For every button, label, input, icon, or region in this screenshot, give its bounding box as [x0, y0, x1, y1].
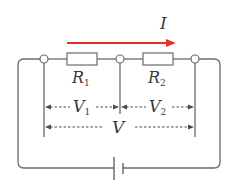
v1-subscript: 1 — [85, 107, 91, 117]
v-letter: V — [112, 117, 124, 137]
v1-letter: V — [73, 97, 85, 116]
r2-subscript: 2 — [160, 78, 166, 88]
current-label-text: I — [160, 13, 167, 33]
r1-letter: R — [72, 68, 84, 87]
resistor-r1-label: R1 — [72, 70, 90, 88]
node-middle — [116, 55, 124, 63]
voltage-v1-label: V1 — [73, 99, 90, 117]
resistor-r2 — [143, 53, 173, 65]
resistor-r2-label: R2 — [148, 70, 166, 88]
r1-subscript: 1 — [84, 78, 90, 88]
voltage-v2-label: V2 — [149, 99, 166, 117]
voltage-v-label: V — [112, 119, 124, 136]
outer-wire — [18, 59, 220, 168]
current-arrow — [67, 39, 176, 47]
battery-icon — [114, 157, 123, 180]
node-right — [191, 55, 199, 63]
v2-letter: V — [149, 97, 161, 116]
v2-subscript: 2 — [161, 107, 167, 117]
circuit-diagram — [0, 0, 241, 195]
r2-letter: R — [148, 68, 160, 87]
node-left — [40, 55, 48, 63]
current-label: I — [160, 15, 167, 32]
resistor-r1 — [67, 53, 97, 65]
